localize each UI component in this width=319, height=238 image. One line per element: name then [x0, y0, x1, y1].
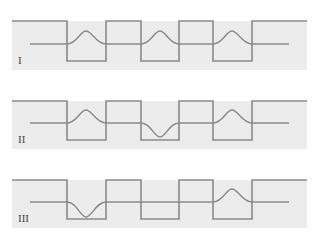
panel-2: [12, 101, 307, 149]
panel-1: [12, 21, 307, 70]
panel-3-label: III: [18, 212, 29, 224]
panel-3: [12, 180, 307, 228]
panel-1-background: [12, 21, 307, 70]
diagram-canvas: [0, 0, 319, 238]
panel-1-label: I: [18, 54, 22, 66]
panel-2-label: II: [18, 133, 25, 145]
panel-3-background: [12, 180, 307, 228]
panel-2-background: [12, 101, 307, 149]
